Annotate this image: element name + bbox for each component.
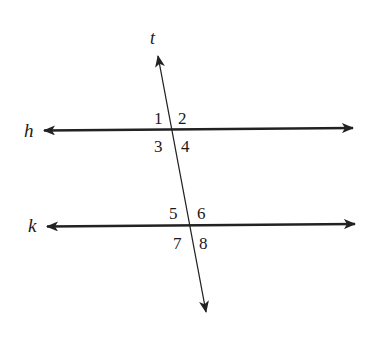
angle-3: 3	[154, 137, 163, 156]
angle-2: 2	[178, 109, 187, 128]
line-t	[158, 56, 206, 312]
label-k: k	[28, 215, 37, 236]
angle-4: 4	[181, 137, 190, 156]
line-k	[47, 224, 355, 227]
label-h: h	[24, 120, 34, 141]
angle-5: 5	[169, 204, 178, 223]
angle-1: 1	[154, 109, 163, 128]
angle-6: 6	[197, 204, 206, 223]
line-h	[44, 128, 353, 131]
angle-7: 7	[173, 234, 182, 253]
transversal-diagram: t h k 1 2 3 4 5 6 7 8	[0, 0, 375, 344]
label-t: t	[150, 28, 156, 48]
angle-8: 8	[199, 234, 208, 253]
